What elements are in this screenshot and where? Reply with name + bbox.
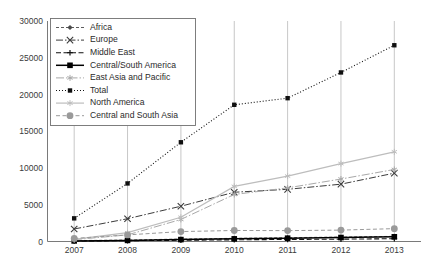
legend-item-label: Total — [90, 85, 108, 95]
series-marker — [125, 181, 129, 185]
legend-item-label: East Asia and Pacific — [90, 72, 171, 82]
series-marker — [339, 70, 343, 74]
y-tick-label: 30000 — [19, 16, 43, 26]
series-marker — [392, 43, 396, 47]
x-tick-label: 2009 — [171, 245, 190, 255]
line-chart-figure: 050001000015000200002500030000 200720082… — [0, 0, 430, 266]
legend-item-label: Africa — [90, 22, 112, 32]
y-tick-label: 20000 — [19, 90, 43, 100]
y-tick-label: 5000 — [24, 200, 43, 210]
y-tick-label: 10000 — [19, 163, 43, 173]
chart-legend: AfricaEuropeMiddle EastCentral/South Ame… — [51, 19, 196, 126]
legend-item-label: Central/South America — [90, 60, 176, 70]
series-marker — [231, 227, 238, 234]
legend-item-label: Central and South Asia — [90, 110, 178, 120]
x-tick-label: 2010 — [225, 245, 244, 255]
y-tick-label: 15000 — [19, 126, 43, 136]
x-tick-label: 2008 — [118, 245, 137, 255]
series-marker — [285, 235, 291, 241]
series-marker — [177, 228, 184, 235]
series-marker — [179, 140, 183, 144]
series-marker — [232, 103, 236, 107]
series-marker — [124, 231, 131, 238]
legend-swatch-marker — [68, 88, 72, 92]
series-marker — [392, 234, 398, 240]
series-marker — [391, 225, 398, 232]
x-tick-label: 2012 — [332, 245, 351, 255]
legend-item-label: Europe — [90, 34, 118, 44]
chart-canvas: 050001000015000200002500030000 200720082… — [0, 0, 430, 266]
series-marker — [72, 216, 76, 220]
legend-swatch-marker — [67, 63, 73, 69]
x-tick-label: 2007 — [65, 245, 84, 255]
series-marker — [71, 235, 78, 242]
series-marker — [284, 227, 291, 234]
series-marker — [178, 237, 184, 243]
y-tick-label: 25000 — [19, 53, 43, 63]
series-marker — [125, 238, 131, 244]
legend-item-label: North America — [90, 97, 145, 107]
y-tick-label: 0 — [38, 237, 43, 247]
series-marker — [338, 227, 345, 234]
series-marker — [231, 236, 237, 242]
series-marker — [338, 235, 344, 241]
legend-swatch-marker — [67, 112, 74, 119]
series-marker — [285, 96, 289, 100]
x-tick-label: 2011 — [278, 245, 297, 255]
legend-item-label: Middle East — [90, 47, 136, 57]
x-tick-label: 2013 — [385, 245, 404, 255]
